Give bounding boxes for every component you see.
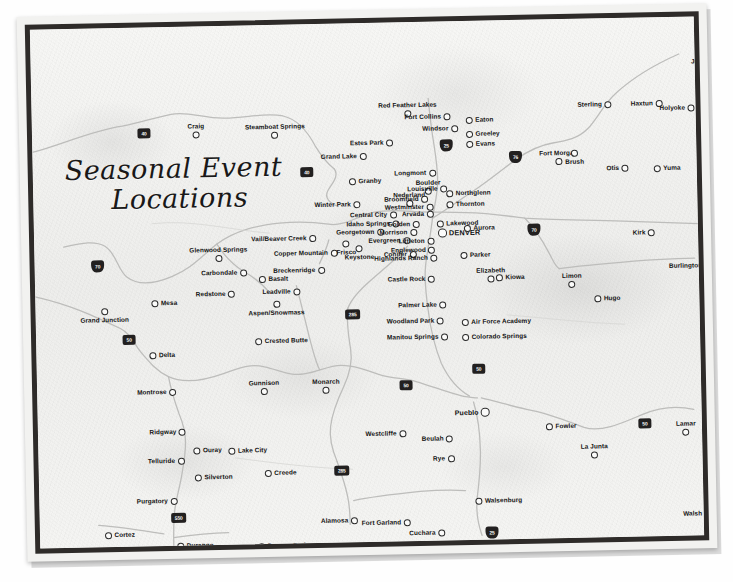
city-marker[interactable]: Carbondale bbox=[201, 269, 247, 277]
city-marker[interactable]: Otis bbox=[606, 165, 628, 172]
city-marker[interactable]: Burlington bbox=[669, 262, 709, 270]
city-marker[interactable]: Basalt bbox=[259, 276, 288, 284]
city-marker[interactable]: Pueblo bbox=[455, 408, 490, 417]
city-marker[interactable]: Steamboat Springs bbox=[245, 123, 305, 139]
highway-shield-icon[interactable]: 70 bbox=[527, 224, 540, 236]
city-marker[interactable]: Rye bbox=[433, 455, 455, 462]
city-marker[interactable]: Pagosa Springs bbox=[258, 542, 317, 550]
city-marker[interactable]: Vail/Beaver Creek bbox=[251, 235, 316, 243]
city-marker[interactable]: Grand Lake bbox=[321, 153, 367, 161]
city-marker[interactable]: Air Force Academy bbox=[462, 318, 531, 326]
highway-shield-icon[interactable]: 76 bbox=[509, 151, 522, 163]
city-marker[interactable]: Castle Rock bbox=[388, 276, 435, 284]
city-marker[interactable]: Breckenridge bbox=[273, 267, 325, 275]
city-marker[interactable]: Windsor bbox=[422, 125, 458, 133]
city-marker[interactable]: Ridgway bbox=[149, 429, 186, 437]
city-marker[interactable]: Morrison bbox=[379, 229, 417, 237]
city-marker[interactable]: Sterling bbox=[577, 101, 611, 109]
city-marker[interactable]: Craig bbox=[187, 123, 204, 138]
highway-shield-icon[interactable]: 25 bbox=[440, 139, 453, 151]
city-marker[interactable]: Arvada bbox=[402, 211, 434, 219]
city-marker[interactable]: Mesa bbox=[151, 300, 177, 308]
city-marker[interactable]: Eaton bbox=[466, 116, 494, 124]
city-marker[interactable]: Aurora bbox=[464, 224, 495, 232]
city-marker[interactable]: Walsenburg bbox=[475, 497, 522, 505]
highway-shield-icon[interactable]: 285 bbox=[345, 309, 360, 319]
city-marker[interactable]: Limon bbox=[562, 273, 582, 288]
city-marker[interactable]: Monarch bbox=[312, 379, 340, 394]
city-marker[interactable]: Ouray bbox=[193, 447, 222, 455]
city-marker[interactable]: La Junta bbox=[581, 443, 608, 458]
highway-shield-icon[interactable]: 25 bbox=[485, 526, 498, 538]
city-marker[interactable]: Purgatory bbox=[137, 498, 178, 506]
city-marker[interactable]: Palmer Lake bbox=[398, 301, 446, 309]
highway-shield-icon[interactable]: 50 bbox=[472, 364, 485, 374]
city-marker[interactable]: Leadville bbox=[262, 288, 300, 296]
city-marker[interactable]: Parker bbox=[460, 252, 490, 260]
highway-shield-icon[interactable]: 285 bbox=[334, 465, 349, 475]
city-marker[interactable]: Julesburg bbox=[691, 58, 709, 74]
city-marker[interactable]: Westcliffe bbox=[365, 430, 406, 438]
city-marker[interactable]: Aspen/Snowmass bbox=[248, 300, 304, 316]
city-marker[interactable]: Fort Garland bbox=[362, 519, 411, 527]
city-marker[interactable]: Yuma bbox=[654, 165, 681, 173]
city-marker[interactable]: Crested Butte bbox=[255, 337, 308, 345]
city-marker[interactable]: Colorado Springs bbox=[462, 333, 527, 341]
highway-shield-icon[interactable]: 40 bbox=[300, 167, 313, 177]
city-marker[interactable]: Haxtun bbox=[631, 100, 663, 108]
city-marker[interactable]: Delta bbox=[149, 352, 175, 360]
city-marker[interactable]: Silverton bbox=[195, 474, 233, 482]
city-marker[interactable]: Glenwood Springs bbox=[189, 246, 247, 262]
city-marker[interactable]: Alamosa bbox=[321, 517, 358, 525]
city-marker[interactable]: Woodland Park bbox=[387, 317, 444, 325]
city-marker[interactable]: Northglenn bbox=[446, 189, 491, 197]
city-marker[interactable]: Walsh bbox=[683, 510, 709, 518]
city-marker[interactable]: Golden bbox=[388, 221, 420, 229]
city-marker[interactable]: Beulah bbox=[422, 435, 454, 443]
city-marker[interactable]: Fort Collins bbox=[404, 113, 450, 121]
highway-shield-icon[interactable]: 50 bbox=[123, 335, 136, 345]
city-dot-icon bbox=[413, 221, 420, 228]
city-label: Walsenburg bbox=[485, 497, 522, 504]
city-marker[interactable]: Grand Junction bbox=[80, 308, 129, 324]
city-marker[interactable]: Redstone bbox=[196, 291, 236, 299]
city-marker[interactable]: Montrose bbox=[137, 389, 176, 397]
city-marker[interactable]: Manitou Springs bbox=[387, 333, 448, 341]
highway-shield-icon[interactable]: 40 bbox=[137, 128, 150, 138]
city-marker[interactable]: Lamar bbox=[676, 420, 696, 435]
city-marker[interactable]: Greeley bbox=[466, 130, 500, 138]
city-label: Burlington bbox=[669, 263, 702, 270]
highway-shield-icon[interactable]: 550 bbox=[171, 513, 186, 523]
city-marker[interactable]: Brush bbox=[565, 150, 584, 165]
city-marker[interactable]: Kirk bbox=[633, 229, 655, 236]
city-marker[interactable]: Granby bbox=[349, 178, 382, 186]
city-marker[interactable]: Estes Park bbox=[350, 139, 393, 147]
city-marker[interactable]: San Luis bbox=[374, 549, 411, 554]
city-marker[interactable]: Longmont bbox=[394, 170, 436, 178]
city-dot-icon bbox=[309, 235, 316, 242]
city-marker[interactable]: Hugo bbox=[594, 295, 620, 303]
city-marker[interactable]: Creede bbox=[265, 469, 297, 477]
city-marker[interactable]: Gunnison bbox=[249, 380, 280, 396]
city-marker[interactable]: Littleton bbox=[399, 238, 435, 246]
city-marker[interactable]: Thornton bbox=[446, 201, 484, 209]
city-marker[interactable]: Winter Park bbox=[314, 201, 360, 209]
city-marker[interactable]: Cortez bbox=[105, 532, 135, 540]
city-marker[interactable]: Kiowa bbox=[496, 274, 525, 282]
city-marker[interactable]: Central City bbox=[350, 211, 397, 219]
city-marker[interactable]: Georgetown bbox=[336, 229, 384, 237]
highway-shield-icon[interactable]: 70 bbox=[91, 260, 104, 272]
city-marker[interactable]: Evans bbox=[466, 140, 495, 148]
city-marker[interactable]: Lake City bbox=[228, 447, 267, 455]
city-marker[interactable]: Highlands Ranch bbox=[374, 255, 437, 263]
city-marker[interactable]: Cuchara bbox=[409, 529, 445, 537]
city-marker[interactable]: Copper Mountain bbox=[274, 250, 338, 258]
highway-shield-icon[interactable]: 50 bbox=[399, 380, 412, 390]
city-marker[interactable]: Keystone bbox=[344, 245, 374, 260]
city-marker[interactable]: Holyoke bbox=[659, 104, 694, 112]
city-marker[interactable]: Fowler bbox=[546, 423, 577, 431]
city-marker[interactable]: Durango bbox=[177, 542, 214, 550]
city-marker[interactable]: Telluride bbox=[148, 458, 185, 466]
highway-shield-icon[interactable]: 50 bbox=[638, 418, 651, 428]
city-label: Woodland Park bbox=[387, 318, 435, 325]
